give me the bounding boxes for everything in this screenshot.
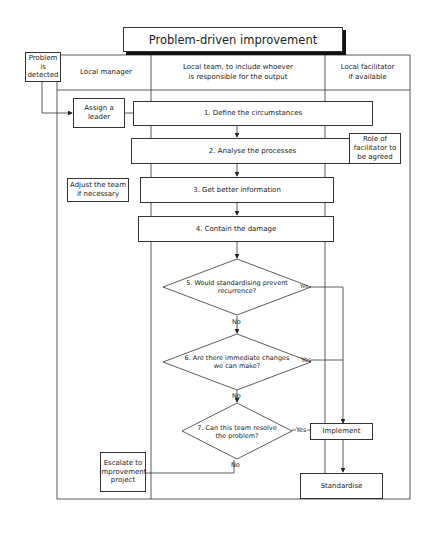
step-2-box: 2. Analyse the processes — [131, 138, 374, 164]
trigger-box: Problem is detected — [25, 52, 61, 82]
d6-yes-label: Yes — [301, 356, 312, 364]
adjust-team-box: Adjust the team if necessary — [67, 178, 129, 202]
step-3-box: 3. Get better information — [140, 177, 334, 203]
lane-header-facilitator: Local facilitator if available — [325, 55, 410, 90]
lane-header-team-line2: is responsible for the output — [189, 73, 288, 82]
d6-no-label: No — [232, 392, 241, 400]
decision-7: 7. Can this team resolve the problem? — [195, 420, 279, 444]
lane-header-team-line1: Local team, to include whoever — [183, 63, 293, 72]
d7-yes-label: Yes — [296, 426, 307, 434]
step-4-box: 4. Contain the damage — [138, 216, 334, 242]
implement-box: Implement — [310, 423, 373, 440]
lane-header-team: Local team, to include whoever is respon… — [151, 55, 325, 90]
diagram-title: Problem-driven improvement — [123, 27, 343, 52]
facilitator-role-box: Role of facilitator to be agreed — [349, 133, 401, 164]
escalate-box: Escalate to improvement project — [100, 452, 146, 492]
lane-header-manager: Local manager — [61, 55, 151, 90]
lane-header-facilitator-line2: if available — [348, 73, 386, 82]
decision-6: 6. Are there immediate changes we can ma… — [182, 345, 292, 379]
decision-5: 5. Would standardising prevent recurrenc… — [180, 270, 294, 304]
lane-header-facilitator-line1: Local facilitator — [341, 63, 395, 72]
assign-leader-box: Assign a leader — [73, 98, 125, 128]
standardise-box: Standardise — [300, 473, 383, 499]
step-1-box: 1. Define the circumstances — [133, 101, 373, 126]
d5-yes-label: Yes — [300, 283, 308, 289]
d7-no-label: No — [231, 461, 240, 469]
d5-no-label: No — [232, 318, 241, 326]
